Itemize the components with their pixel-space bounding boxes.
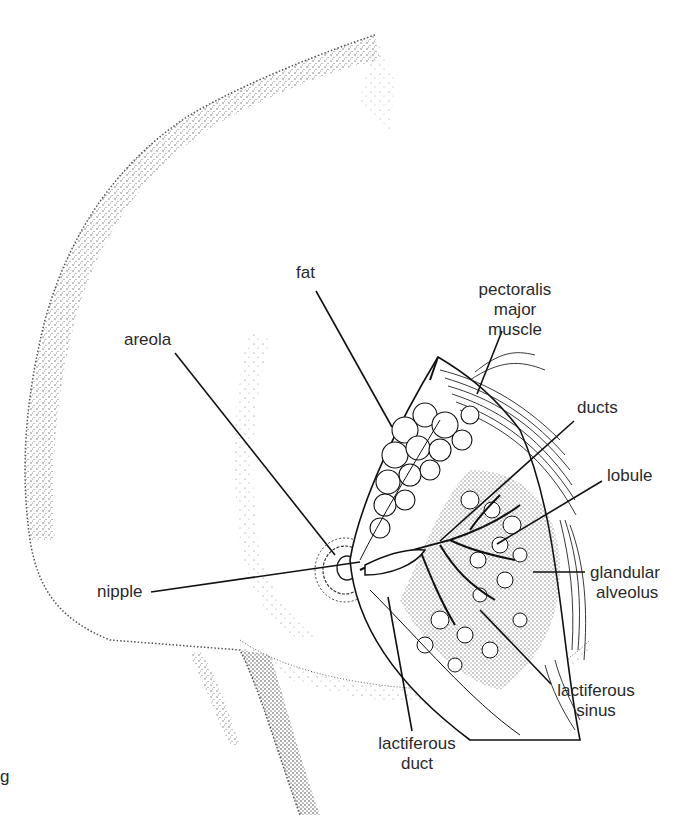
label-line: muscle: [465, 320, 565, 340]
label-glandular-alveolus: glandular alveolus: [590, 563, 660, 603]
label-line: alveolus: [590, 583, 660, 603]
leader-fat: [316, 291, 392, 427]
label-line: sinus: [551, 701, 641, 721]
label-lobule: lobule: [607, 466, 652, 486]
leader-pectoralis: [477, 331, 502, 394]
label-nipple: nipple: [97, 582, 142, 602]
label-ducts: ducts: [577, 398, 618, 418]
label-line: pectoralis: [465, 280, 565, 300]
label-fat: fat: [296, 263, 315, 283]
label-line: lactiferous: [551, 681, 641, 701]
stray-glyph: g: [0, 767, 9, 787]
label-areola: areola: [124, 330, 171, 350]
label-lactiferous-duct: lactiferous duct: [372, 734, 462, 774]
label-line: major: [465, 300, 565, 320]
label-lactiferous-sinus: lactiferous sinus: [551, 681, 641, 721]
label-pectoralis-major-muscle: pectoralis major muscle: [465, 280, 565, 340]
label-line: duct: [372, 754, 462, 774]
label-line: lactiferous: [372, 734, 462, 754]
label-line: glandular: [590, 563, 660, 583]
